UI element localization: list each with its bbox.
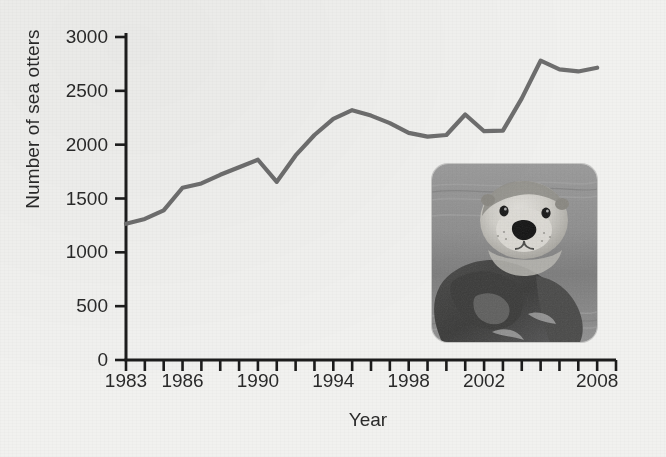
sea-otter-illustration [432,164,597,342]
chart-figure: Number of sea otters Year 05001000150020… [0,0,666,457]
sea-otter-photo [432,164,597,342]
y-axis-ticks [115,37,126,360]
x-axis-ticks [126,360,616,371]
